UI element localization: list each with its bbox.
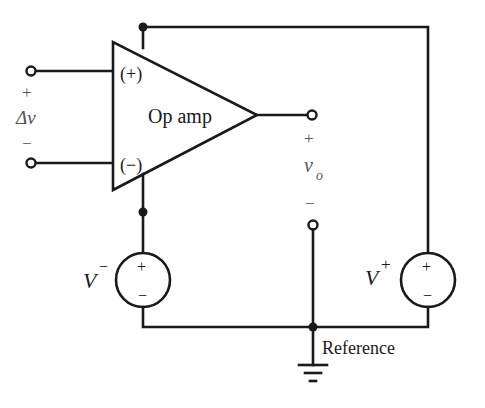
vminus-junction-dot xyxy=(139,208,148,217)
op-amp-circuit-diagram: (+) (−) Op amp + Δv − + v o − V − + − V … xyxy=(0,0,485,408)
output-voltage-subscript: o xyxy=(316,168,323,183)
output-minus-terminal xyxy=(309,221,318,230)
noninverting-input-label: (+) xyxy=(120,64,142,85)
input-plus-sign: + xyxy=(22,83,32,102)
vminus-superscript: − xyxy=(99,258,108,275)
circuit-svg: (+) (−) Op amp + Δv − + v o − V − + − V … xyxy=(0,0,485,408)
noninverting-input-terminal xyxy=(27,67,36,76)
vplus-minus-sign: − xyxy=(423,287,432,304)
bottom-reference-wire xyxy=(143,307,428,327)
vminus-name: V xyxy=(83,268,99,293)
vminus-plus-sign: + xyxy=(137,258,146,275)
output-voltage-symbol: v xyxy=(304,154,313,176)
reference-label: Reference xyxy=(322,338,395,358)
op-amp-label: Op amp xyxy=(148,105,212,128)
inverting-input-terminal xyxy=(27,159,36,168)
top-junction-dot xyxy=(139,23,148,32)
vplus-superscript: + xyxy=(381,255,391,274)
output-plus-sign: + xyxy=(304,129,314,148)
output-minus-sign: − xyxy=(305,194,315,213)
output-plus-terminal xyxy=(308,111,317,120)
delta-v-label: Δv xyxy=(15,107,36,128)
inverting-input-label: (−) xyxy=(120,155,142,176)
ground-icon xyxy=(299,365,327,381)
vplus-plus-sign: + xyxy=(422,258,431,275)
vplus-name: V xyxy=(365,265,381,290)
input-minus-sign: − xyxy=(22,134,32,153)
vminus-minus-sign: − xyxy=(138,287,147,304)
